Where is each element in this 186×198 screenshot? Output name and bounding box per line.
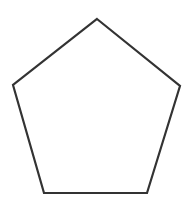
diagram-canvas bbox=[0, 0, 186, 198]
pentagon-shape bbox=[13, 19, 180, 193]
pentagon-figure bbox=[0, 0, 186, 198]
